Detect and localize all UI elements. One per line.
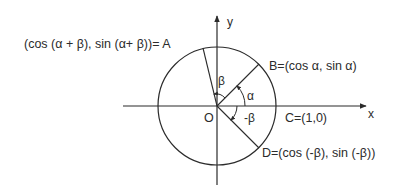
y-axis-label: y: [227, 15, 233, 29]
angle-alpha-arc: [237, 86, 245, 106]
angle-neg-beta-arc: [231, 106, 237, 120]
unit-circle-diagram: (cos (α + β), sin (α+ β))= A B=(cos α, s…: [0, 0, 415, 193]
angle-neg-beta-label: -β: [244, 111, 255, 125]
origin-label: O: [204, 111, 214, 125]
angle-alpha-label: α: [247, 89, 254, 103]
point-b-label: B=(cos α, sin α): [269, 59, 357, 73]
angle-beta-arc: [214, 94, 225, 98]
radius-oa: [203, 48, 217, 106]
angle-beta-label: β: [218, 74, 225, 88]
x-axis-label: x: [368, 107, 374, 121]
point-c-label: C=(1,0): [285, 111, 327, 125]
point-d-label: D=(cos (-β), sin (-β)): [262, 146, 375, 160]
point-a-label: (cos (α + β), sin (α+ β))= A: [24, 37, 171, 51]
